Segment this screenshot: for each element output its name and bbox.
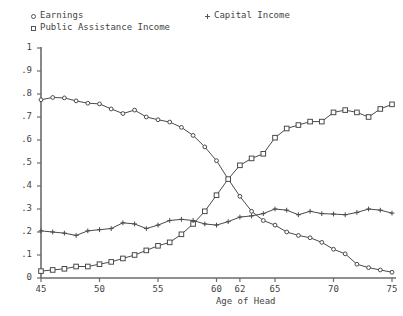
- x-tick-label: 50: [89, 284, 111, 294]
- x-tick-label: 45: [30, 284, 52, 294]
- x-tick-label: 55: [147, 284, 169, 294]
- y-tick-label: .7: [16, 111, 32, 121]
- y-tick-label: .2: [16, 226, 32, 236]
- series-capital-income: [39, 207, 395, 238]
- x-tick-label: 65: [264, 284, 286, 294]
- y-tick-label: .8: [16, 88, 32, 98]
- y-tick-label: .6: [16, 134, 32, 144]
- x-tick-label: 62: [229, 284, 251, 294]
- x-tick-label: 75: [381, 284, 403, 294]
- series-public-assistance-income: [39, 102, 395, 273]
- y-tick-label: .5: [16, 157, 32, 167]
- y-tick-label: 1: [16, 42, 32, 52]
- series-earnings: [39, 96, 394, 275]
- plot-area: [0, 0, 403, 316]
- y-tick-label: .1: [16, 249, 32, 259]
- y-tick-label: .9: [16, 65, 32, 75]
- y-tick-label: .4: [16, 180, 32, 190]
- x-tick-label: 60: [206, 284, 228, 294]
- chart-container: Earnings Public Assistance Income Capita…: [0, 0, 403, 316]
- y-tick-label: 0: [16, 272, 32, 282]
- y-tick-label: .3: [16, 203, 32, 213]
- x-tick-label: 70: [323, 284, 345, 294]
- x-axis-title: Age of Head: [216, 296, 276, 306]
